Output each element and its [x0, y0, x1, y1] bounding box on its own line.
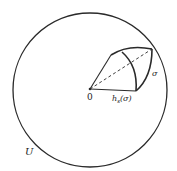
- cone-edge-upper: [90, 55, 111, 89]
- region-label: U: [25, 146, 34, 157]
- origin-point: [89, 88, 92, 91]
- image-arc: [122, 52, 136, 91]
- map-label: hs(σ): [112, 94, 132, 104]
- diagram-figure: 0 hs(σ) σ U: [0, 0, 177, 171]
- simplex-label: σ: [152, 69, 158, 78]
- sector-upper-arc: [111, 47, 152, 55]
- map-label-arg: (σ): [120, 94, 132, 103]
- cone-edge-lower: [90, 89, 136, 91]
- origin-label: 0: [87, 92, 93, 102]
- simplex-arc: [136, 49, 152, 91]
